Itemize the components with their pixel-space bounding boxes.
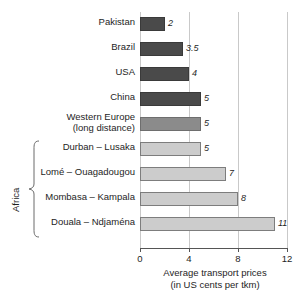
bar-value-brazil: 3.5	[186, 43, 199, 53]
bar-chart: Pakistan Brazil USA China Western Europe…	[0, 0, 308, 304]
x-tick-label-12: 12	[282, 253, 293, 264]
x-axis-title: Average transport prices (in US cents pe…	[140, 267, 290, 291]
bar-brazil	[140, 42, 183, 56]
category-label-western-europe-line2: (long distance)	[73, 123, 135, 134]
category-label-usa: USA	[115, 67, 135, 78]
bar-usa	[140, 67, 189, 81]
bar-value-western-europe: 5	[204, 118, 209, 128]
bar-mombasa-kampala	[140, 192, 238, 206]
x-tick-mark-0	[140, 248, 141, 252]
bar-durban-lusaka	[140, 142, 201, 156]
plot-area: 2 3.5 4 5 5 5 7 8 11	[140, 12, 288, 248]
category-label-lome-ouagadougou: Lomé – Ouagadougou	[40, 167, 135, 178]
bar-pakistan	[140, 17, 165, 31]
x-tick-mark-4	[189, 248, 190, 252]
category-label-brazil: Brazil	[111, 42, 135, 53]
bar-value-lome-ouagadougou: 7	[229, 168, 234, 178]
category-label-china: China	[110, 92, 135, 103]
category-label-durban-lusaka: Durban – Lusaka	[63, 142, 135, 153]
bar-western-europe	[140, 117, 201, 131]
bar-china	[140, 92, 201, 106]
category-label-western-europe-line1: Western Europe	[67, 112, 135, 123]
brace-icon	[28, 140, 40, 238]
bar-value-pakistan: 2	[168, 18, 173, 28]
bar-value-usa: 4	[192, 68, 197, 78]
x-tick-label-8: 8	[235, 253, 240, 264]
category-label-mombasa-kampala: Mombasa – Kampala	[45, 192, 135, 203]
x-tick-label-0: 0	[137, 253, 142, 264]
bar-value-china: 5	[204, 93, 209, 103]
bar-value-durban-lusaka: 5	[204, 143, 209, 153]
africa-group-label: Africa	[10, 188, 21, 212]
x-tick-mark-12	[287, 248, 288, 252]
africa-group-brace	[28, 140, 40, 238]
gridline-8	[238, 12, 239, 248]
x-axis-line	[140, 248, 288, 249]
bar-douala-ndjamena	[140, 217, 275, 231]
category-label-pakistan: Pakistan	[99, 17, 135, 28]
bar-value-douala-ndjamena: 11	[278, 218, 287, 228]
gridline-12	[287, 12, 288, 248]
x-axis-title-line1: Average transport prices	[140, 267, 290, 279]
x-tick-mark-8	[238, 248, 239, 252]
x-axis-title-line2: (in US cents per tkm)	[140, 279, 290, 291]
x-tick-label-4: 4	[186, 253, 191, 264]
bar-value-mombasa-kampala: 8	[241, 193, 246, 203]
category-label-douala-ndjamena: Douala – Ndjaména	[51, 217, 135, 228]
bar-lome-ouagadougou	[140, 167, 226, 181]
